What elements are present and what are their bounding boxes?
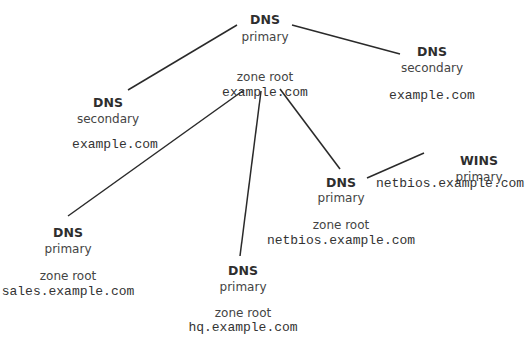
domain-name: hq.example.com (188, 321, 297, 334)
zone-label: zone root (40, 270, 97, 282)
domain-name: example.com (72, 138, 158, 151)
zone-label: zone root (313, 219, 370, 231)
node-role: primary (318, 192, 365, 204)
domain-name: netbios.example.com (376, 177, 524, 190)
zone-label: zone root (215, 307, 272, 319)
node-role: secondary (401, 62, 463, 74)
domain-name: example.com (222, 86, 308, 99)
domain-name: sales.example.com (2, 285, 135, 298)
zone-label: zone root (237, 71, 294, 83)
edge-root-hq (240, 91, 261, 256)
edge-root-secondary-left (128, 25, 237, 90)
node-role: secondary (77, 113, 139, 125)
domain-name: netbios.example.com (267, 234, 415, 247)
node-type: DNS (228, 265, 258, 278)
edge-netbios-wins (367, 153, 424, 178)
node-role: primary (220, 281, 267, 293)
node-role: primary (242, 31, 289, 43)
node-type: WINS (460, 155, 498, 168)
node-type: DNS (326, 177, 356, 190)
node-type: DNS (417, 46, 447, 59)
node-type: DNS (53, 227, 83, 240)
domain-name: example.com (389, 89, 475, 102)
node-role: primary (45, 243, 92, 255)
node-type: DNS (93, 97, 123, 110)
edge-root-netbios (280, 89, 340, 169)
zone-diagram: DNS primary zone root example.com DNS se… (0, 0, 525, 343)
node-type: DNS (250, 14, 280, 27)
edge-root-secondary-right (292, 25, 400, 54)
